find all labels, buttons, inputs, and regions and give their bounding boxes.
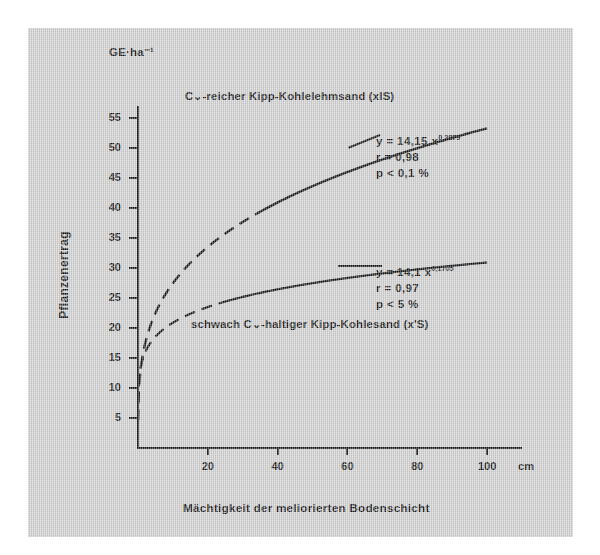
y-axis-unit-label: GE·ha⁻¹ (109, 45, 154, 59)
y-axis-line (137, 106, 139, 448)
x-tick-mark (346, 447, 348, 455)
y-tick-mark (129, 417, 137, 419)
equation-exponent-lower: 0,1705 (431, 264, 453, 273)
x-axis-unit-label: cm (506, 460, 546, 472)
equation-text-upper: y = 14,15 x (376, 135, 438, 147)
figure-panel: GE·ha⁻¹ Pflanzenertrag 51015202530354045… (28, 28, 573, 537)
equation-formula-lower: y = 14,1 x0,1705 (376, 261, 453, 280)
x-tick-mark (277, 447, 279, 455)
x-tick-label: 40 (258, 460, 298, 472)
y-axis-title: Pflanzenertrag (57, 215, 71, 335)
equation-p-lower: p < 5 % (376, 296, 453, 312)
y-tick-label: 20 (81, 321, 121, 333)
x-tick-mark (486, 447, 488, 455)
x-tick-mark (207, 447, 209, 455)
equation-block-lower: y = 14,1 x0,1705 r = 0,97 p < 5 % (376, 261, 453, 312)
y-tick-mark (129, 177, 137, 179)
x-tick-label: 100 (467, 460, 507, 472)
y-tick-mark (129, 357, 137, 359)
x-tick-mark (416, 447, 418, 455)
curve-label-schwach-c: schwach C⌄-haltiger Kipp-Kohlesand (x'S) (191, 318, 429, 331)
y-tick-label: 40 (81, 201, 121, 213)
equation-p-upper: p < 0,1 % (376, 165, 460, 181)
y-tick-label: 45 (81, 171, 121, 183)
y-tick-label: 10 (81, 381, 121, 393)
y-tick-mark (129, 267, 137, 269)
curve-label-c-reicher: C⌄-reicher Kipp-Kohlelehmsand (xlS) (185, 90, 394, 103)
equation-text-lower: y = 14,1 x (376, 266, 431, 278)
y-tick-label: 5 (81, 411, 121, 423)
y-tick-label: 55 (81, 111, 121, 123)
equation-r-upper: r = 0,98 (376, 149, 460, 165)
x-axis-line (137, 447, 522, 449)
y-tick-mark (129, 117, 137, 119)
equation-r-lower: r = 0,97 (376, 280, 453, 296)
x-tick-label: 20 (188, 460, 228, 472)
x-axis-title: Mächtigkeit der meliorierten Bodenschich… (183, 501, 430, 514)
y-tick-mark (129, 387, 137, 389)
y-tick-label: 30 (81, 261, 121, 273)
equation-block-upper: y = 14,15 x0,2879 r = 0,98 p < 0,1 % (376, 130, 460, 181)
y-tick-label: 15 (81, 351, 121, 363)
y-tick-mark (129, 297, 137, 299)
y-tick-label: 35 (81, 231, 121, 243)
y-tick-mark (129, 237, 137, 239)
x-tick-label: 80 (397, 460, 437, 472)
equation-exponent-upper: 0,2879 (438, 133, 460, 142)
y-tick-mark (129, 327, 137, 329)
x-tick-label: 60 (327, 460, 367, 472)
y-tick-mark (129, 207, 137, 209)
y-tick-label: 25 (81, 291, 121, 303)
y-tick-mark (129, 147, 137, 149)
equation-formula-upper: y = 14,15 x0,2879 (376, 130, 460, 149)
y-tick-label: 50 (81, 141, 121, 153)
